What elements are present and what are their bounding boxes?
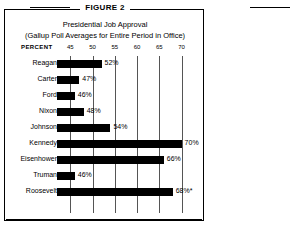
x-tick-label: 50 [89, 44, 96, 50]
bar-row: Eisenhower66% [5, 152, 203, 168]
bar-category-label: Truman [33, 171, 57, 178]
bar-row: Nixon48% [5, 104, 203, 120]
bar-value-label: 66% [167, 155, 181, 162]
x-axis-label: PERCENT [21, 44, 52, 50]
bar [57, 188, 173, 196]
bar-value-label: 46% [78, 171, 92, 178]
figure-label-rule-left [30, 7, 70, 8]
x-tick-label: 70 [178, 44, 185, 50]
bar-category-label: Carter [38, 75, 57, 82]
bar-category-label: Nixon [39, 107, 57, 114]
bar-rows: Reagan52%Carter47%Ford46%Nixon48%Johnson… [5, 56, 203, 200]
x-axis: PERCENT 455055606570 [0, 44, 210, 56]
bar [57, 92, 75, 100]
bar-value-label: 48% [87, 107, 101, 114]
bar-value-label: 47% [82, 75, 96, 82]
bar [57, 140, 182, 148]
bar-value-label: 54% [113, 123, 127, 130]
bar-category-label: Ford [43, 91, 57, 98]
bar-row: Roosevelt68%* [5, 184, 203, 200]
bar-value-label: 68%* [176, 187, 193, 194]
chart-subtitle: (Gallup Poll Averages for Entire Period … [0, 31, 210, 40]
x-tick-label: 45 [67, 44, 74, 50]
bar-row: Reagan52% [5, 56, 203, 72]
plot-area: Reagan52%Carter47%Ford46%Nixon48%Johnson… [5, 56, 203, 213]
x-tick-label: 60 [134, 44, 141, 50]
bar-row: Kennedy70% [5, 136, 203, 152]
bar-row: Ford46% [5, 88, 203, 104]
bar [57, 172, 75, 180]
bar-value-label: 70% [185, 139, 199, 146]
x-tick-label: 65 [156, 44, 163, 50]
bar [57, 60, 102, 68]
chart-title: Presidential Job Approval [0, 20, 210, 29]
figure-label-text: FIGURE 2 [80, 3, 129, 12]
bar-row: Truman46% [5, 168, 203, 184]
bar-category-label: Eisenhower [20, 155, 57, 162]
bar-category-label: Kennedy [29, 139, 57, 146]
bar-category-label: Johnson [31, 123, 57, 130]
bar-row: Johnson54% [5, 120, 203, 136]
figure-inner-bottom-rule [6, 219, 202, 220]
bar-category-label: Reagan [32, 59, 57, 66]
bar [57, 124, 110, 132]
bar-value-label: 52% [105, 59, 119, 66]
bar-category-label: Roosevelt [26, 187, 57, 194]
bar-value-label: 46% [78, 91, 92, 98]
x-tick-label: 55 [112, 44, 119, 50]
bar [57, 76, 79, 84]
bar [57, 156, 164, 164]
bar [57, 108, 84, 116]
bar-row: Carter47% [5, 72, 203, 88]
